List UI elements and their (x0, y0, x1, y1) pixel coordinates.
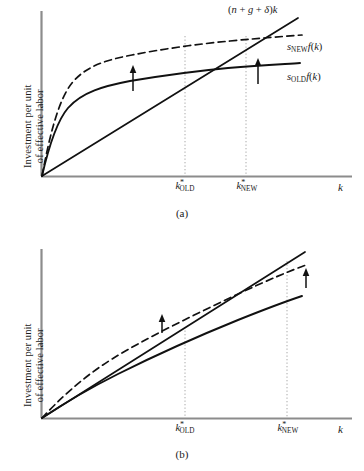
figure-root: Investment per unit of effective labor (… (0, 0, 364, 471)
y-axis-label-b: Investment per unit of effective labor (22, 323, 45, 407)
curve-label-depreciation-a: (n + g + δ)k (228, 4, 277, 15)
panel-caption-b: (b) (0, 448, 364, 460)
chart-panel-b: Investment per unit of effective labor (… (0, 235, 364, 471)
curve-label-saving-new-a: sNEWf(k) (287, 41, 322, 52)
chart-canvas-a (0, 0, 364, 235)
chart-panel-a: Investment per unit of effective labor (… (0, 0, 364, 235)
curve-saving-old-a (42, 63, 300, 176)
tick-label-k-star-new-b: k*NEW (278, 422, 299, 433)
y-axis-label-line2-a: of effective labor (34, 84, 46, 168)
curve-saving-new-b (42, 265, 306, 418)
curve-saving-new-a (42, 35, 302, 176)
x-axis-var-a: k (338, 181, 343, 193)
y-axis-label-line1-a: Investment per unit (22, 84, 34, 168)
tick-label-k-star-old-b: k*OLD (175, 422, 194, 433)
shift-arrow-left-a (130, 65, 137, 91)
tick-label-k-star-new-a: k*NEW (237, 180, 258, 191)
y-axis-label-line2-b: of effective labor (34, 323, 46, 407)
chart-canvas-b (0, 235, 364, 471)
shift-arrow-right-b (303, 268, 310, 288)
y-axis-label-line1-b: Investment per unit (22, 323, 34, 407)
y-axis-label-a: Investment per unit of effective labor (22, 84, 45, 168)
curve-label-saving-old-a: sOLDf(k) (287, 71, 321, 82)
shift-arrow-right-a (255, 58, 262, 84)
x-axis-var-b: k (338, 423, 343, 435)
panel-caption-a: (a) (0, 207, 364, 219)
tick-label-k-star-old-a: k*OLD (175, 180, 194, 191)
curve-saving-old-b (42, 296, 302, 418)
